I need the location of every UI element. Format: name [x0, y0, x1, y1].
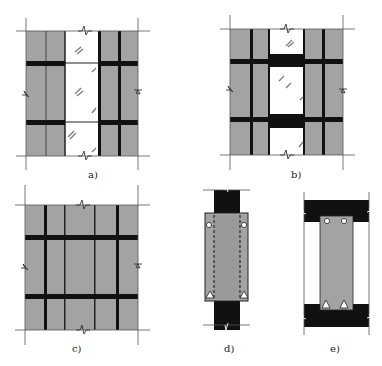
- panel-a: a): [16, 18, 150, 180]
- panel-a-band: [99, 61, 138, 66]
- label-e: e): [330, 343, 340, 354]
- panel-c-wall: [25, 205, 138, 330]
- label-b: b): [291, 169, 301, 180]
- anchor-circle-icon: [341, 218, 346, 223]
- anchor-circle-icon: [206, 222, 211, 227]
- panel-a-column: [118, 31, 121, 156]
- panel-b-beam: [269, 114, 304, 128]
- panel-b-window: [269, 29, 304, 155]
- panel-a-column: [98, 31, 101, 156]
- panel-d: d): [203, 185, 250, 354]
- structural-diagram: a) b): [0, 0, 382, 366]
- label-a: a): [88, 169, 98, 180]
- panel-b: b): [220, 15, 355, 180]
- panel-a-band: [26, 61, 65, 66]
- panel-c: c): [15, 185, 150, 354]
- panel-e-panel: [320, 216, 353, 310]
- label-d: d): [224, 343, 234, 354]
- label-c: c): [72, 343, 82, 354]
- panel-e: e): [300, 192, 373, 354]
- panel-b-beam: [269, 54, 304, 67]
- panel-c-band: [25, 294, 138, 299]
- panel-a-band: [99, 120, 138, 125]
- panel-a-band: [26, 120, 65, 125]
- panel-c-band: [25, 235, 138, 240]
- anchor-circle-icon: [324, 218, 329, 223]
- anchor-circle-icon: [241, 222, 246, 227]
